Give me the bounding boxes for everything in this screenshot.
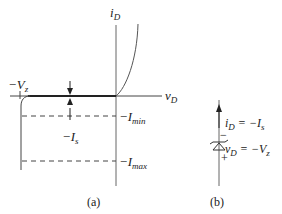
plus-terminal-sign: + <box>221 152 228 164</box>
x-axis-label: vD <box>165 89 177 102</box>
imax-label: −Imax <box>119 155 147 168</box>
forward-curve <box>116 24 138 96</box>
is-arrowhead-up <box>67 98 73 105</box>
voltage-equation-label: vD = −Vz <box>225 143 270 155</box>
caption-b: (b) <box>210 196 224 208</box>
is-arrowhead-down <box>67 88 73 95</box>
current-equation-label: iD = −Is <box>225 117 265 129</box>
breakdown-voltage-label: −Vz <box>8 78 28 91</box>
caption-a: (a) <box>87 196 100 208</box>
minus-terminal-sign: − <box>220 129 227 141</box>
saturation-current-label: −Is <box>62 130 79 143</box>
current-arrowhead <box>216 104 222 112</box>
y-axis-label: iD <box>110 6 120 19</box>
breakdown-curve <box>21 96 30 170</box>
imin-label: −Imin <box>119 110 146 123</box>
zener-diagram <box>0 0 282 214</box>
